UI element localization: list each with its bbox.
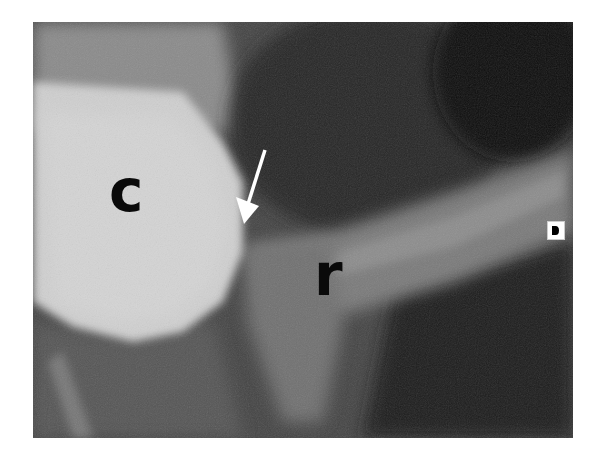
label-r: r — [314, 246, 343, 304]
label-c: c — [109, 162, 143, 220]
xray-image: c r — [33, 22, 573, 438]
orientation-marker-icon — [547, 221, 565, 240]
xray-rendering — [33, 22, 573, 438]
